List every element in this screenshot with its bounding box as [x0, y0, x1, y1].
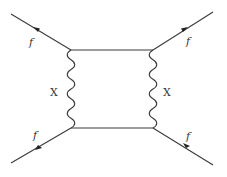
label-f-top-left: f: [28, 36, 35, 49]
boson-line-right: [149, 50, 157, 128]
fermion-line-top-left: [11, 14, 71, 50]
label-f-top-right: f: [185, 35, 192, 48]
label-f-bottom-right: f: [185, 130, 192, 143]
label-f-bottom-left: f: [32, 129, 39, 142]
label-x-right: X: [163, 86, 171, 99]
boson-line-left: [67, 50, 75, 128]
label-x-left: X: [50, 86, 58, 99]
fermion-line-bottom-left: [11, 128, 71, 163]
fermion-line-bottom-right: [153, 128, 213, 165]
feynman-diagram: f f f f X X: [0, 0, 227, 177]
